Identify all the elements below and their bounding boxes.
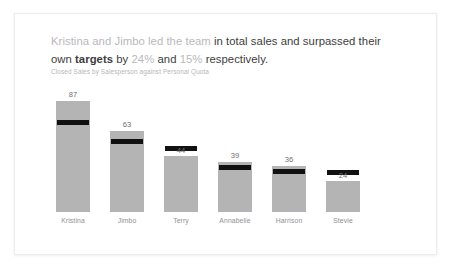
bar-value-label: 87 <box>51 90 95 99</box>
target-marker <box>273 169 305 174</box>
target-marker <box>57 120 89 125</box>
headline-segment-7: respectively. <box>202 53 268 65</box>
bar-category-label: Stevie <box>321 217 365 224</box>
bar-category-label: Annabelle <box>213 217 257 224</box>
bar-category-label: Jimbo <box>105 217 149 224</box>
headline-segment-0: Kristina and Jimbo led the team <box>51 35 214 47</box>
bar-column[interactable]: 24 <box>321 84 365 212</box>
headline-segment-5: and <box>154 53 179 65</box>
bar-column[interactable]: 36 <box>267 84 311 212</box>
bar-group: 876344393624 <box>51 84 381 212</box>
bar-category-label: Terry <box>159 217 203 224</box>
bar-column[interactable]: 44 <box>159 84 203 212</box>
headline-segment-4: 24% <box>132 53 155 65</box>
chart-card: Kristina and Jimbo led the team in total… <box>14 13 437 255</box>
target-marker <box>219 165 251 170</box>
chart-subtitle: Closed Sales by Salesperson against Pers… <box>51 68 209 75</box>
chart-headline: Kristina and Jimbo led the team in total… <box>51 33 401 68</box>
bar-value-label: 24 <box>321 171 365 180</box>
chart-plot-area: 876344393624 KristinaJimboTerryAnnabelle… <box>51 84 381 232</box>
bar-rect[interactable] <box>56 101 90 212</box>
bar-value-label: 39 <box>213 151 257 160</box>
bar-category-label: Kristina <box>51 217 95 224</box>
bar-column[interactable]: 63 <box>105 84 149 212</box>
bar-column[interactable]: 87 <box>51 84 95 212</box>
bar-value-label: 44 <box>159 146 203 155</box>
bar-rect[interactable] <box>164 156 198 212</box>
screenshot-root: Kristina and Jimbo led the team in total… <box>0 0 451 271</box>
headline-segment-3: by <box>113 53 131 65</box>
headline-segment-2: targets <box>75 53 113 65</box>
headline-segment-6: 15% <box>180 53 203 65</box>
bar-rect[interactable] <box>326 181 360 212</box>
bar-column[interactable]: 39 <box>213 84 257 212</box>
bar-value-label: 63 <box>105 120 149 129</box>
bar-value-label: 36 <box>267 155 311 164</box>
target-marker <box>111 139 143 144</box>
bar-category-label: Harrison <box>267 217 311 224</box>
